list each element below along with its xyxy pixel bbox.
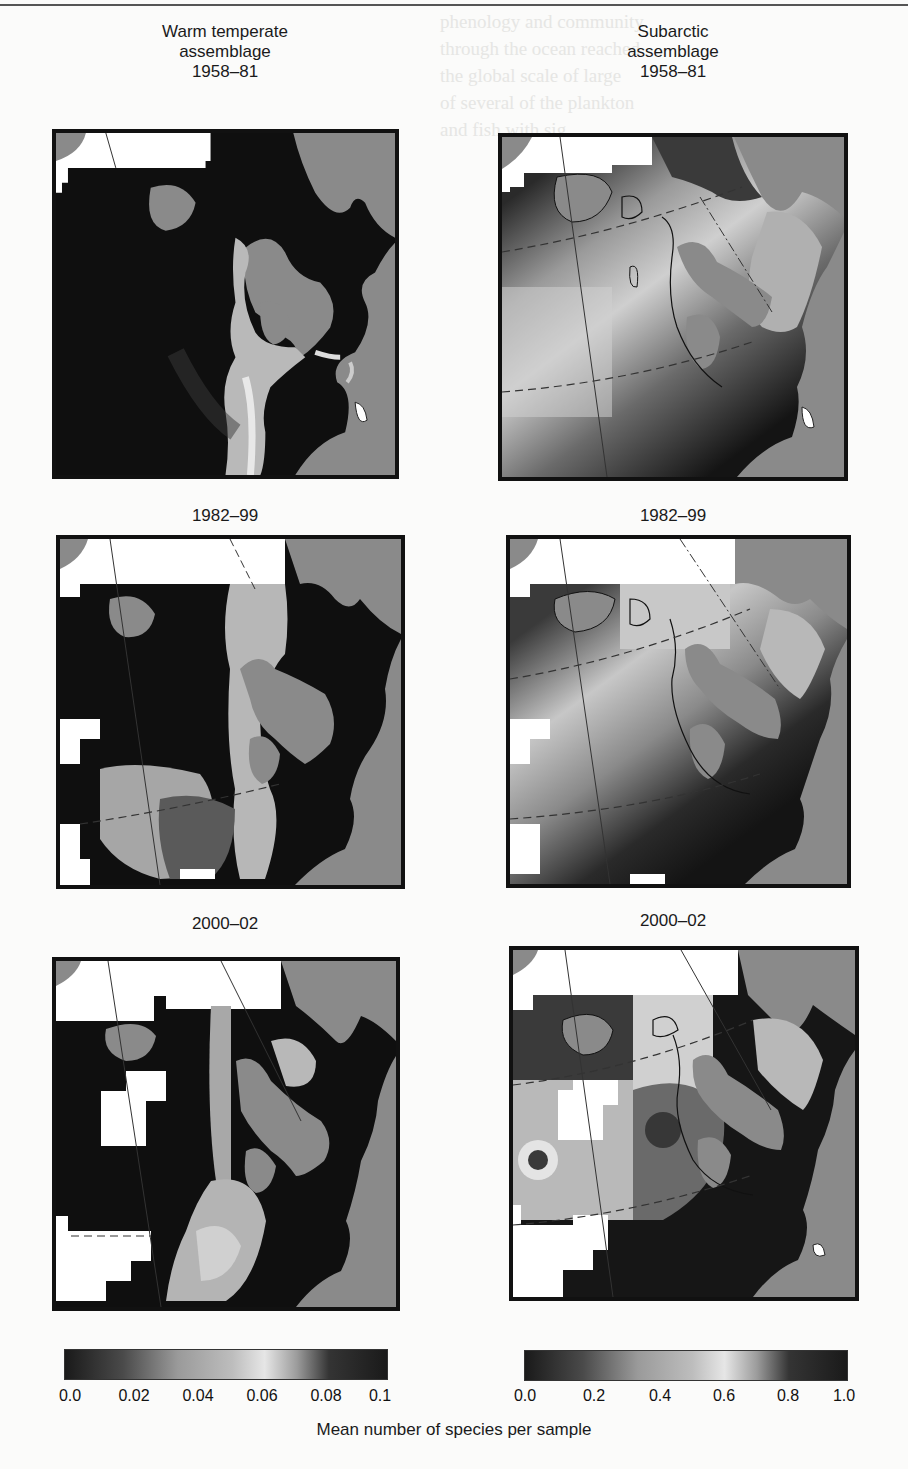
tick-label: 0.0 <box>59 1387 81 1405</box>
page-top-rule <box>0 4 908 6</box>
tick-label: 0.4 <box>649 1387 671 1405</box>
tick-label: 0.04 <box>182 1387 213 1405</box>
map-subarctic-2000-02 <box>509 946 859 1301</box>
period-label: 1958–81 <box>100 62 350 82</box>
map-subarctic-1982-99 <box>506 535 851 888</box>
x-axis-label: Mean number of species per sample <box>0 1420 908 1440</box>
tick-label: 0.8 <box>777 1387 799 1405</box>
title-line-1: Subarctic <box>548 22 798 42</box>
warm-period-2-label: 1982–99 <box>100 506 350 526</box>
tick-label: 0.2 <box>583 1387 605 1405</box>
colorbar-warm-temperate <box>64 1349 388 1380</box>
title-line-2: assemblage <box>548 42 798 62</box>
tick-label: 0.08 <box>310 1387 341 1405</box>
tick-label: 0.6 <box>713 1387 735 1405</box>
subarctic-period-3-label: 2000–02 <box>548 911 798 931</box>
tick-label: 0.0 <box>514 1387 536 1405</box>
warm-period-3-label: 2000–02 <box>100 914 350 934</box>
subarctic-period-2-label: 1982–99 <box>548 506 798 526</box>
title-line-1: Warm temperate <box>100 22 350 42</box>
tick-label: 0.02 <box>118 1387 149 1405</box>
tick-label: 0.06 <box>246 1387 277 1405</box>
period-label: 1958–81 <box>548 62 798 82</box>
map-warm-2000-02 <box>52 957 400 1311</box>
subarctic-title: Subarctic assemblage 1958–81 <box>548 22 798 82</box>
title-line-2: assemblage <box>100 42 350 62</box>
tick-label: 0.1 <box>369 1387 391 1405</box>
warm-temperate-title: Warm temperate assemblage 1958–81 <box>100 22 350 82</box>
map-warm-1982-99 <box>56 535 405 889</box>
colorbar-subarctic <box>524 1350 848 1381</box>
tick-label: 1.0 <box>833 1387 855 1405</box>
map-warm-1958-81 <box>52 129 399 479</box>
map-subarctic-1958-81 <box>498 133 848 481</box>
